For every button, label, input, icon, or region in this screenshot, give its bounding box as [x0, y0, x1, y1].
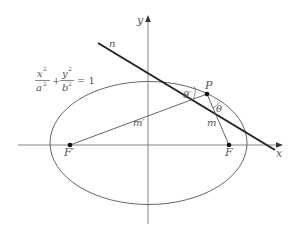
svg-text:a: a — [36, 82, 42, 93]
y-axis-arrow-icon — [145, 15, 151, 22]
angle-theta-label: θ — [216, 103, 222, 114]
svg-text:= 1: = 1 — [77, 75, 95, 86]
x-axis-label: x — [276, 147, 283, 160]
point-P — [205, 92, 210, 97]
ellipse-curve — [50, 82, 247, 205]
ellipse-equation: x 2 a 2 + y 2 b 2 = 1 — [35, 65, 95, 93]
angle-theta-prime-label: θ′ — [183, 89, 192, 100]
segment-m-prime-label: m′ — [133, 117, 145, 128]
focus-F-prime-label: F′ — [63, 146, 75, 159]
svg-text:2: 2 — [68, 80, 72, 87]
svg-text:2: 2 — [43, 65, 47, 72]
segment-m-label: m — [207, 117, 216, 128]
focus-F-label: F — [224, 146, 233, 159]
normal-label-n: n — [109, 38, 115, 49]
svg-text:y: y — [61, 68, 68, 79]
svg-text:+: + — [52, 75, 60, 86]
svg-text:2: 2 — [43, 80, 47, 87]
diagram-svg: y x n P F F′ m m′ θ θ′ x 2 a 2 + y 2 b 2… — [0, 0, 300, 237]
point-P-label: P — [204, 79, 213, 92]
ellipse-diagram: y x n P F F′ m m′ θ θ′ x 2 a 2 + y 2 b 2… — [0, 0, 300, 237]
svg-text:2: 2 — [68, 65, 72, 72]
y-axis-label: y — [136, 14, 144, 27]
